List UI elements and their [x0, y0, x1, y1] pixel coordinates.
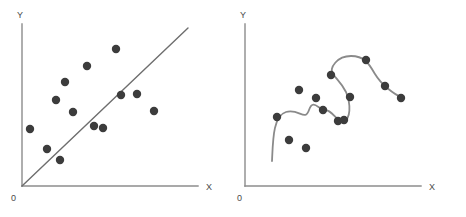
- data-point: [52, 96, 60, 104]
- data-point: [69, 108, 77, 116]
- data-point: [112, 45, 120, 53]
- y-axis-label-left: Y: [17, 10, 23, 20]
- x-axis-label-right: X: [429, 182, 435, 192]
- overfit-spline-curve: [272, 56, 403, 161]
- scatter-points-right: [273, 56, 405, 152]
- data-point: [43, 145, 51, 153]
- scatter-points-left: [26, 45, 158, 164]
- chart-panel-left: Y X 0: [0, 0, 233, 217]
- origin-label-left: 0: [11, 193, 16, 203]
- data-point: [319, 106, 327, 114]
- two-panel-scatter-figure: Y X 0 Y X 0: [0, 0, 466, 217]
- data-point: [90, 122, 98, 130]
- data-point: [362, 56, 370, 64]
- data-point: [285, 136, 293, 144]
- data-point: [381, 82, 389, 90]
- data-point: [150, 107, 158, 115]
- data-point: [56, 156, 64, 164]
- data-point: [61, 78, 69, 86]
- data-point: [26, 125, 34, 133]
- linear-fit-line: [22, 28, 188, 186]
- x-axis-label-left: X: [206, 182, 212, 192]
- data-point: [327, 71, 335, 79]
- chart-panel-right: Y X 0: [233, 0, 466, 217]
- data-point: [397, 94, 405, 102]
- data-point: [312, 94, 320, 102]
- data-point: [99, 124, 107, 132]
- data-point: [117, 91, 125, 99]
- data-point: [340, 116, 348, 124]
- data-point: [346, 93, 354, 101]
- data-point: [302, 144, 310, 152]
- right-chart-svg: Y X 0: [233, 0, 466, 217]
- data-point: [295, 86, 303, 94]
- y-axis-label-right: Y: [240, 10, 246, 20]
- data-point: [83, 62, 91, 70]
- origin-label-right: 0: [237, 193, 242, 203]
- data-point: [273, 113, 281, 121]
- data-point: [133, 90, 141, 98]
- left-chart-svg: Y X 0: [0, 0, 233, 217]
